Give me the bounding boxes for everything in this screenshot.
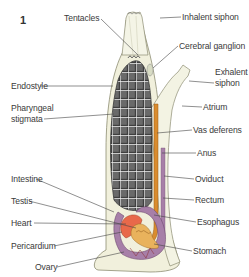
figure-number: 1: [20, 14, 26, 26]
label-oviduct: Oviduct: [195, 174, 223, 184]
label-heart: Heart: [11, 218, 32, 228]
label-intestine: Intestine: [11, 174, 43, 184]
label-exhalent-siphon-line1: Exhalent: [215, 67, 248, 77]
label-esophagus: Esophagus: [197, 217, 239, 227]
label-vas-deferens: Vas deferens: [193, 125, 242, 135]
label-ovary: Ovary: [35, 262, 57, 272]
label-stomach: Stomach: [193, 246, 226, 256]
label-endostyle: Endostyle: [11, 81, 48, 91]
label-inhalent-siphon: Inhalent siphon: [182, 12, 239, 22]
label-atrium: Atrium: [203, 102, 227, 112]
inhalent-siphon: [122, 12, 148, 55]
label-pericardium: Pericardium: [11, 241, 56, 251]
label-exhalent-siphon-line2: siphon: [215, 78, 240, 88]
tunicate-diagram: 1 Tentacles Inhalent siphon Cerebral gan…: [0, 0, 249, 277]
label-anus: Anus: [197, 148, 216, 158]
label-pharyngeal-line2: stigmata: [11, 114, 43, 124]
label-testis: Testis: [11, 196, 32, 206]
label-cerebral-ganglion: Cerebral ganglion: [179, 41, 245, 51]
cerebral-ganglion: [147, 64, 153, 76]
label-tentacles: Tentacles: [64, 13, 99, 23]
label-pharyngeal-line1: Pharyngeal: [11, 103, 53, 113]
label-rectum: Rectum: [195, 195, 224, 205]
